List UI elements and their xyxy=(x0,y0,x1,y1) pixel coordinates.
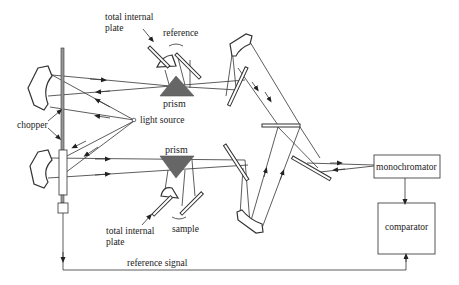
chopper-label: chopper xyxy=(17,120,48,130)
arrow xyxy=(97,100,110,107)
beam-line xyxy=(300,127,320,158)
chopper xyxy=(58,48,68,213)
arrow xyxy=(86,147,98,155)
beam-line xyxy=(192,160,195,196)
sample-tir-plate-left xyxy=(152,196,173,217)
monochromator-label: monochromator xyxy=(376,162,438,172)
beam-line xyxy=(65,121,134,173)
beam-line xyxy=(50,158,245,160)
arrow xyxy=(335,169,345,170)
tir-plate-top-label-line1: total internal xyxy=(105,12,154,22)
arrow xyxy=(252,82,257,89)
rotation-arrow-icon xyxy=(172,217,186,219)
chopper-pointer-arrow xyxy=(48,128,59,138)
chopper-axle xyxy=(61,195,64,203)
arrow xyxy=(74,141,86,147)
rotation-arrow-icon xyxy=(169,44,183,46)
sample-tir-assembly xyxy=(142,188,203,225)
comparator-label: comparator xyxy=(385,222,429,232)
arrow xyxy=(265,92,270,100)
beam-line xyxy=(250,127,278,224)
top-right-plate-mirror xyxy=(228,67,248,106)
spectrometer-diagram: total internal plate reference prism lig… xyxy=(0,0,459,285)
tir-plate-bottom-label-line2: plate xyxy=(106,237,124,247)
sample-tir-plate-right xyxy=(180,192,203,215)
arrow xyxy=(280,172,283,180)
chopper-blade xyxy=(59,150,67,195)
arrow xyxy=(98,91,110,92)
light-source-label: light source xyxy=(140,115,185,125)
arrow xyxy=(95,174,108,175)
top-prism xyxy=(160,76,194,96)
bottom-right-plate-mirror xyxy=(292,156,332,181)
reference-label: reference xyxy=(163,28,198,38)
beam-line xyxy=(48,80,245,96)
beam-line xyxy=(307,163,374,165)
top-left-concave-mirror xyxy=(28,66,52,110)
prism-top-label: prism xyxy=(163,98,186,109)
bottom-prism xyxy=(160,156,194,178)
top-right-concave-mirror xyxy=(230,34,252,56)
beam-line xyxy=(65,121,134,157)
chopper-pointer-arrow xyxy=(48,111,60,121)
beam-line xyxy=(48,165,248,178)
bottom-left-concave-mirror xyxy=(30,150,52,188)
arrow xyxy=(90,79,104,80)
beam-line xyxy=(182,170,185,206)
pointer-arrow xyxy=(142,216,150,225)
beam-line xyxy=(320,166,374,172)
reference-signal-label: reference signal xyxy=(127,258,188,268)
light-source-icon xyxy=(132,118,136,122)
middle-plate-mirror xyxy=(262,124,300,127)
beam-line xyxy=(165,170,168,190)
tir-plate-top-label-line2: plate xyxy=(105,23,123,33)
chopper-motor xyxy=(58,203,68,213)
prism-bottom-label: prism xyxy=(165,144,188,155)
beam-line xyxy=(250,42,300,125)
bottom-right-concave-mirror xyxy=(237,210,263,233)
pointer-arrow xyxy=(143,29,152,40)
reference-tir-plate-right xyxy=(175,53,201,79)
sample-label: sample xyxy=(172,224,199,234)
tir-plate-bottom-label-line1: total internal xyxy=(106,226,155,236)
